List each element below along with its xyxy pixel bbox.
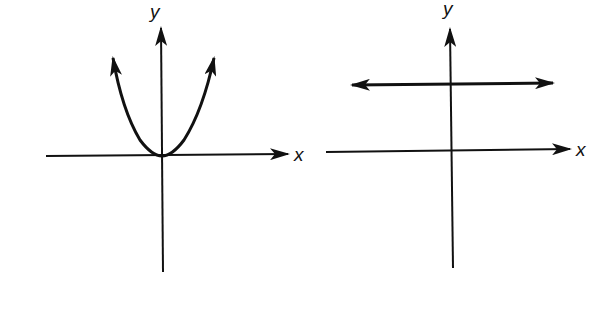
right-y-axis (450, 29, 453, 268)
right-x-axis-label: x (575, 139, 587, 160)
right-graph: y x (326, 0, 587, 268)
left-y-axis (161, 28, 163, 272)
parabola-curve (113, 58, 214, 156)
horizontal-line (352, 83, 553, 85)
left-x-axis-label: x (293, 144, 305, 165)
left-graph: y x (46, 1, 305, 272)
left-y-axis-label: y (148, 1, 161, 22)
right-y-axis-label: y (441, 0, 454, 19)
right-x-axis (326, 149, 570, 152)
figure: y x y x (0, 0, 609, 313)
